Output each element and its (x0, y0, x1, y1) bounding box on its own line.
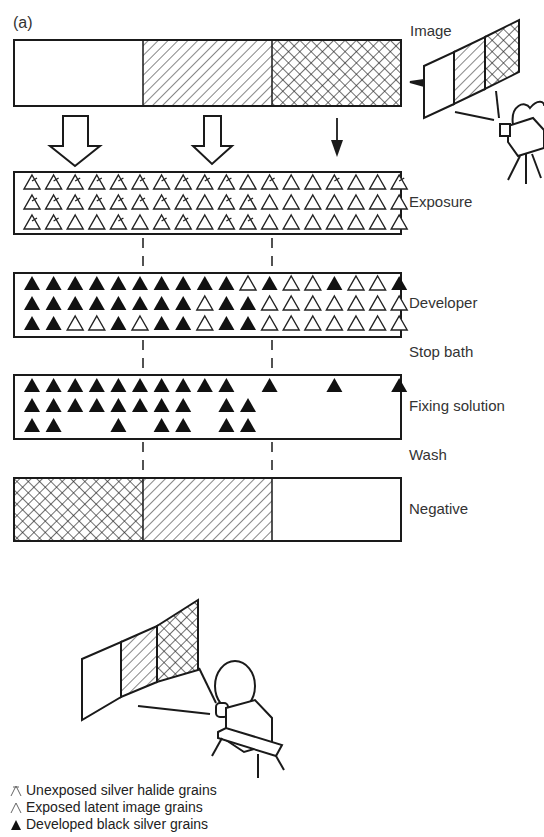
legend-item-unexposed: Unexposed silver halide grains (10, 782, 217, 799)
developed-grain-icon (10, 819, 22, 831)
stage-label-exposure: Exposure (409, 193, 472, 210)
stage-label-negative: Negative (409, 500, 468, 517)
small-arrow-icon (331, 118, 343, 157)
stage-label-image: Image (410, 22, 452, 39)
large-arrow-icon (50, 116, 232, 166)
negative-bar (14, 478, 401, 541)
unexposed-grain-icon (10, 785, 22, 797)
stage-label-stop-bath: Stop bath (409, 343, 473, 360)
legend-item-exposed: Exposed latent image grains (10, 799, 217, 816)
legend: Unexposed silver halide grains Exposed l… (10, 782, 217, 833)
stage-label-fixing: Fixing solution (409, 397, 505, 414)
image-bar (14, 40, 401, 106)
stage-label-developer: Developer (409, 294, 477, 311)
projection-screen (82, 600, 198, 720)
camera-icon (455, 91, 544, 184)
exposed-grain-icon (10, 802, 22, 814)
stage-label-wash: Wash (409, 446, 447, 463)
legend-item-developed: Developed black silver grains (10, 816, 217, 833)
film-processing-diagram (0, 0, 544, 837)
panel-label: (a) (13, 14, 33, 32)
